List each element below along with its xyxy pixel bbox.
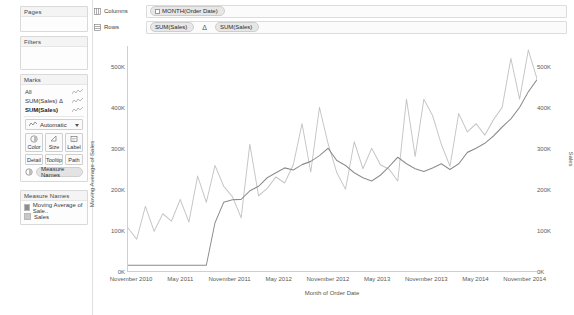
- size-button-label: Size: [49, 144, 60, 150]
- marks-item-label: SUM(Sales) Δ: [25, 98, 63, 104]
- x-axis-tick-label: November 2011: [208, 276, 250, 282]
- plot-region[interactable]: [127, 46, 537, 272]
- x-axis-tick-label: May 2011: [167, 276, 193, 282]
- pages-card[interactable]: Pages: [20, 6, 88, 32]
- detail-button-label: Detail: [27, 157, 41, 163]
- path-button-label: Path: [68, 157, 79, 163]
- pill-label: MONTH(Order Date): [162, 8, 218, 14]
- series-line: [128, 80, 537, 266]
- rows-shelf: Rows SUM(Sales) Δ SUM(Sales): [94, 20, 567, 34]
- label-icon: [70, 135, 78, 143]
- y-axis-right-tick-label: 100K: [537, 228, 551, 234]
- marks-item-label: SUM(Sales): [25, 107, 58, 113]
- y-axis-left-tick-label: 500K: [111, 64, 125, 70]
- x-axis-tick-label: November 2013: [405, 276, 448, 282]
- legend-body: Moving Average of Sale.. Sales: [21, 201, 87, 224]
- rows-icon: [94, 24, 101, 31]
- mark-type-label: Automatic: [40, 122, 67, 128]
- marks-item-sum-sales[interactable]: SUM(Sales): [24, 105, 84, 114]
- path-button[interactable]: Path: [65, 154, 83, 165]
- columns-shelf: Columns MONTH(Order Date): [94, 4, 567, 18]
- legend-swatch: [24, 213, 31, 220]
- marks-item-all[interactable]: All: [24, 87, 84, 96]
- color-palette-icon: [25, 168, 33, 176]
- legend-title: Measure Names: [21, 191, 87, 201]
- rows-shelf-label: Rows: [94, 24, 146, 31]
- line-chart-icon: [29, 122, 37, 128]
- pill-label: SUM(Sales): [155, 24, 187, 30]
- marks-dropped-field[interactable]: Measure Names: [25, 167, 83, 177]
- measure-names-pill-label: Measure Names: [41, 166, 78, 178]
- x-axis-tick-label: November 2010: [110, 276, 153, 282]
- marks-buttons-row-1: Color Size Label: [25, 133, 83, 152]
- label-button-label: Label: [67, 144, 80, 150]
- marks-item-sum-sales-delta[interactable]: SUM(Sales) Δ: [24, 96, 84, 105]
- columns-shelf-label: Columns: [94, 8, 146, 15]
- legend-item[interactable]: Moving Average of Sale..: [24, 203, 84, 212]
- rows-shelf-well[interactable]: SUM(Sales) Δ SUM(Sales): [146, 21, 567, 34]
- marks-buttons-row-2: Detail Tooltip Path: [25, 154, 83, 165]
- detail-button[interactable]: Detail: [25, 154, 43, 165]
- marks-item-label: All: [25, 89, 32, 95]
- color-button[interactable]: Color: [25, 133, 43, 152]
- rows-label-text: Rows: [104, 24, 119, 30]
- y-axis-right-tick-label: 0K: [537, 269, 544, 275]
- x-axis-tick-label: November 2012: [307, 276, 350, 282]
- series-line: [128, 50, 537, 239]
- y-axis-left-tick-label: 300K: [111, 146, 125, 152]
- worksheet-area: Columns MONTH(Order Date) Rows: [92, 0, 571, 315]
- y-axis-right-tick-label: 500K: [537, 64, 551, 70]
- expand-plus-icon[interactable]: [155, 9, 160, 14]
- y-axis-right-ticks: 500K400K300K200K100K0K: [537, 46, 559, 272]
- filters-card-body[interactable]: [21, 47, 87, 52]
- chart-canvas: Moving Average of Sales Sales 500K400K30…: [94, 36, 567, 306]
- pill-month-order-date[interactable]: MONTH(Order Date): [150, 6, 225, 16]
- y-axis-right-tick-label: 400K: [537, 105, 551, 111]
- y-axis-left-ticks: 500K400K300K200K100K0K: [94, 46, 125, 272]
- y-axis-left-tick-label: 100K: [111, 228, 125, 234]
- columns-label-text: Columns: [104, 8, 128, 14]
- pill-label: SUM(Sales): [220, 24, 252, 30]
- chevron-down-icon[interactable]: [75, 124, 79, 127]
- label-button[interactable]: Label: [65, 133, 83, 152]
- marks-card: Marks All SUM(Sales) Δ SUM(Sales): [20, 74, 88, 182]
- columns-icon: [94, 8, 101, 15]
- legend-item-label: Sales: [34, 214, 49, 220]
- sparkline-icon: [72, 89, 83, 95]
- pages-card-title: Pages: [21, 7, 87, 17]
- x-axis-tick-label: May 2013: [364, 276, 390, 282]
- size-button[interactable]: Size: [45, 133, 63, 152]
- filters-card-title: Filters: [21, 37, 87, 47]
- filters-card[interactable]: Filters: [20, 36, 88, 70]
- sparkline-icon: [72, 107, 83, 113]
- y-axis-right-tick-label: 300K: [537, 146, 551, 152]
- color-palette-icon: [30, 135, 38, 143]
- mark-type-selector[interactable]: Automatic: [25, 119, 83, 130]
- left-panel: Pages Filters Marks All SUM(Sales) Δ: [0, 0, 92, 315]
- columns-shelf-well[interactable]: MONTH(Order Date): [146, 5, 567, 18]
- line-chart-svg: [128, 46, 537, 271]
- pill-sum-sales-2[interactable]: SUM(Sales): [215, 22, 259, 32]
- x-axis-tick-label: November 2014: [503, 276, 546, 282]
- color-legend-card: Measure Names Moving Average of Sale.. S…: [20, 190, 88, 225]
- legend-swatch: [24, 204, 30, 211]
- pages-card-body[interactable]: [21, 17, 87, 22]
- tooltip-button[interactable]: Tooltip: [45, 154, 63, 165]
- marks-card-title: Marks: [21, 75, 87, 85]
- pill-sum-sales-1[interactable]: SUM(Sales): [150, 22, 194, 32]
- delta-symbol: Δ: [200, 24, 209, 31]
- legend-item-label: Moving Average of Sale..: [33, 202, 84, 214]
- size-icon: [50, 135, 58, 143]
- x-axis-ticks: November 2010May 2011November 2011May 20…: [127, 276, 537, 286]
- x-axis-tick-label: May 2014: [462, 276, 488, 282]
- color-button-label: Color: [27, 144, 40, 150]
- y-axis-left-tick-label: 400K: [111, 105, 125, 111]
- divider: [24, 116, 84, 117]
- y-axis-right-title: Sales: [568, 151, 574, 166]
- x-axis-title: Month of Order Date: [127, 290, 537, 296]
- marks-card-body: All SUM(Sales) Δ SUM(Sales): [21, 85, 87, 181]
- measure-names-pill[interactable]: Measure Names: [36, 167, 83, 177]
- y-axis-left-tick-label: 200K: [111, 187, 125, 193]
- sparkline-icon: [72, 98, 83, 104]
